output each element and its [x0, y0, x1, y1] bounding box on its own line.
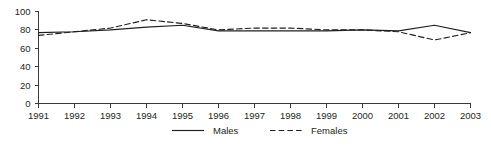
x-tick-label: 1993	[100, 110, 121, 121]
y-axis-ticks	[35, 12, 39, 104]
legend-label-males: Males	[213, 125, 239, 136]
y-tick-label: 20	[20, 80, 31, 91]
x-tick-label: 1995	[172, 110, 193, 121]
x-axis-ticks	[39, 104, 471, 108]
x-tick-label: 1999	[316, 110, 337, 121]
legend: Males Females	[172, 125, 348, 136]
x-tick-label: 1992	[64, 110, 85, 121]
y-tick-label: 0	[25, 98, 30, 109]
x-tick-label: 2000	[352, 110, 373, 121]
y-axis: 020406080100	[15, 6, 39, 109]
x-tick-label: 1994	[136, 110, 157, 121]
plot-area	[39, 20, 471, 40]
x-tick-label: 1997	[244, 110, 265, 121]
x-axis: 1991199219931994199519961997199819992000…	[28, 104, 481, 121]
x-tick-label: 1996	[208, 110, 229, 121]
y-tick-label: 80	[20, 24, 31, 35]
x-tick-label: 2003	[460, 110, 481, 121]
y-axis-tick-labels: 020406080100	[15, 6, 31, 109]
x-axis-tick-labels: 1991199219931994199519961997199819992000…	[28, 110, 481, 121]
y-tick-label: 100	[15, 6, 31, 17]
x-tick-label: 2002	[424, 110, 445, 121]
x-tick-label: 1991	[28, 110, 49, 121]
x-tick-label: 1998	[280, 110, 301, 121]
y-tick-label: 60	[20, 43, 31, 54]
chart-canvas: 020406080100 199119921993199419951996199…	[0, 0, 491, 145]
legend-label-females: Females	[311, 125, 348, 136]
y-tick-label: 40	[20, 61, 31, 72]
line-chart-figure: 020406080100 199119921993199419951996199…	[0, 0, 491, 145]
x-tick-label: 2001	[388, 110, 409, 121]
